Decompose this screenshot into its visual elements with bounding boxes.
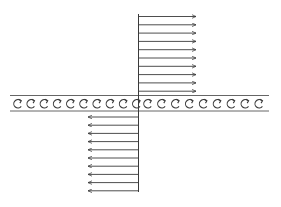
vortex-icon (144, 99, 151, 108)
vortex-icon (14, 99, 21, 108)
vortex-icon (172, 99, 179, 108)
shear-layer-diagram (0, 0, 281, 207)
vortex-icon (199, 99, 206, 108)
vortex-icon (40, 99, 47, 108)
vortex-icon (106, 99, 113, 108)
vortex-icon (53, 99, 60, 108)
vortex-icon (255, 99, 262, 108)
lower-flow-arrows (88, 117, 139, 191)
vortex-icon (93, 99, 100, 108)
vortex-icon (119, 99, 126, 108)
vortex-icon (241, 99, 248, 108)
vortex-icon (213, 99, 220, 108)
vortex-icon (27, 99, 34, 108)
vortex-icon (67, 99, 74, 108)
vortex-icon (158, 99, 165, 108)
vortex-icon (227, 99, 234, 108)
vortex-icon (80, 99, 87, 108)
vortex-icon (186, 99, 193, 108)
upper-flow-arrows (138, 17, 196, 92)
vortex-sheet-band (10, 96, 269, 112)
